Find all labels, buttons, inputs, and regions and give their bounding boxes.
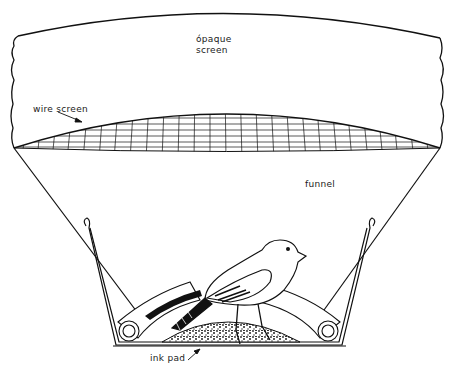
opaque-screen-label-line2: screen (196, 45, 228, 56)
wire-screen-label: wire screen (33, 104, 88, 115)
funnel-label: funnel (305, 179, 335, 190)
ink-pad-label: ink pad (150, 353, 185, 364)
ink-pad-arrow (188, 349, 200, 360)
opaque-screen-label-line1: ópaque (196, 34, 232, 45)
